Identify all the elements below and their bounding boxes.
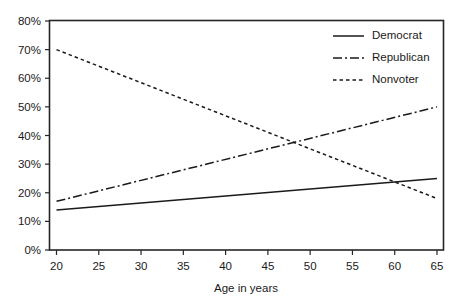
- y-tick-label: 10%: [18, 215, 41, 227]
- x-tick-label: 60: [388, 260, 401, 272]
- y-tick-label: 40%: [18, 130, 41, 142]
- legend-label-nonvoter: Nonvoter: [372, 73, 419, 85]
- y-tick-label: 30%: [18, 158, 41, 170]
- x-tick-label: 30: [135, 260, 148, 272]
- x-tick-label: 50: [304, 260, 317, 272]
- chart-figure: 0%10%20%30%40%50%60%70%80% 2025303540455…: [0, 0, 461, 308]
- y-tick-label: 20%: [18, 187, 41, 199]
- y-tick-label: 0%: [24, 244, 41, 256]
- chart-legend: DemocratRepublicanNonvoter: [333, 29, 430, 85]
- x-tick-label: 35: [177, 260, 190, 272]
- series-line-democrat: [57, 178, 438, 209]
- x-axis-title: Age in years: [214, 282, 278, 294]
- x-tick-label: 55: [346, 260, 359, 272]
- legend-label-democrat: Democrat: [372, 29, 423, 41]
- legend-label-republican: Republican: [372, 51, 430, 63]
- y-tick-label: 80%: [18, 15, 41, 27]
- x-tick-label: 65: [431, 260, 444, 272]
- x-tick-label: 20: [50, 260, 63, 272]
- y-tick-label: 70%: [18, 44, 41, 56]
- y-tick-label: 50%: [18, 101, 41, 113]
- x-tick-label: 40: [219, 260, 232, 272]
- series-line-nonvoter: [57, 50, 438, 199]
- line-chart: 0%10%20%30%40%50%60%70%80% 2025303540455…: [0, 0, 461, 308]
- y-tick-label: 60%: [18, 72, 41, 84]
- x-axis-ticks: 20253035404550556065: [50, 250, 443, 272]
- x-tick-label: 45: [261, 260, 274, 272]
- y-axis-ticks: 0%10%20%30%40%50%60%70%80%: [18, 15, 50, 256]
- x-tick-label: 25: [92, 260, 105, 272]
- series-line-republican: [57, 107, 438, 201]
